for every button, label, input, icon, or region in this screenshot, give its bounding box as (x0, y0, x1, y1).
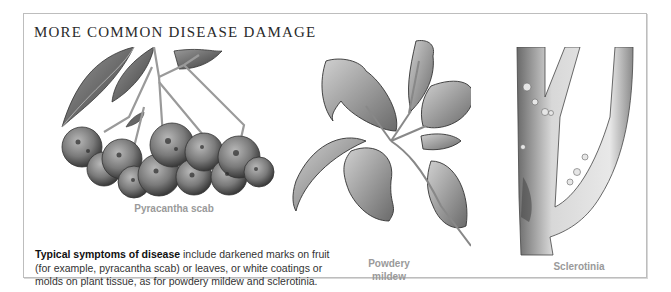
powdery-mildew-label-line2: mildew (354, 270, 424, 283)
pyracantha-scab-label: Pyracantha scab (104, 202, 244, 215)
powdery-mildew-leaves-illustration (271, 31, 471, 251)
sclerotinia-stem-illustration (515, 47, 635, 257)
powdery-mildew-label: Powdery mildew (354, 257, 424, 283)
body-paragraph: Typical symptoms of disease include dark… (35, 248, 335, 289)
powdery-mildew-label-line1: Powdery (354, 257, 424, 270)
pyracantha-berries-illustration (34, 47, 284, 207)
body-lead-bold: Typical symptoms of disease (35, 248, 180, 260)
sclerotinia-label: Sclerotinia (544, 260, 614, 273)
disease-damage-panel: MORE COMMON DISEASE DAMAGE (23, 13, 647, 278)
